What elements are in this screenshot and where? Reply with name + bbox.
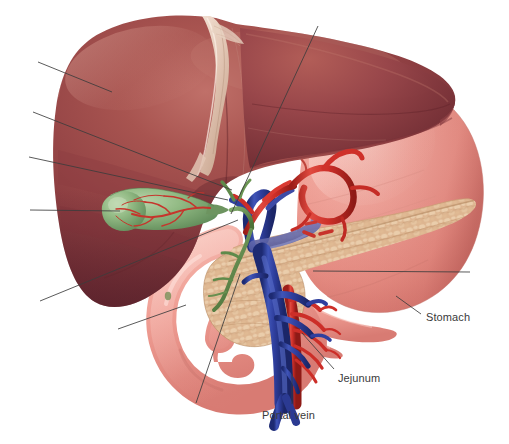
label-portal-vein: Portal vein xyxy=(262,409,315,421)
anatomy-illustration xyxy=(0,0,509,444)
right-hepatic-duct xyxy=(240,180,250,198)
gallbladder-neck xyxy=(206,204,229,215)
duodenum-marking xyxy=(165,292,171,300)
left-hepatic-duct xyxy=(222,182,234,200)
label-stomach: Stomach xyxy=(426,311,470,323)
label-jejunum: Jejunum xyxy=(338,372,380,384)
anatomy-figure: Stomach Jejunum Portal vein xyxy=(0,0,509,444)
